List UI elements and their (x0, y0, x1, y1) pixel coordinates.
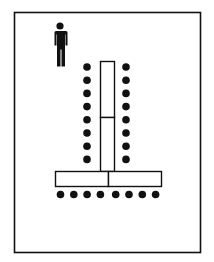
seat (122, 156, 130, 164)
seat (122, 90, 130, 98)
horizontal-table-segment (109, 172, 162, 187)
seat (83, 129, 91, 137)
horizontal-table-segment (56, 172, 109, 187)
seat (122, 116, 130, 124)
seating-diagram (0, 0, 214, 262)
seat (122, 142, 130, 150)
vertical-table (101, 62, 115, 172)
seat (83, 142, 91, 150)
seat (83, 90, 91, 98)
seat (83, 191, 91, 199)
seat (83, 156, 91, 164)
seat (122, 103, 130, 111)
vertical-table-segment (101, 118, 115, 172)
seat (57, 191, 65, 199)
seat (122, 76, 130, 84)
seat (83, 116, 91, 124)
seat (83, 63, 91, 71)
seat (122, 129, 130, 137)
seat (97, 191, 105, 199)
horizontal-table (56, 172, 162, 187)
seat (83, 103, 91, 111)
seat (139, 191, 147, 199)
seat (70, 191, 78, 199)
seat (122, 63, 130, 71)
seat (83, 76, 91, 84)
seat (152, 191, 160, 199)
vertical-table-segment (101, 62, 115, 118)
seat (112, 191, 120, 199)
seat (125, 191, 133, 199)
